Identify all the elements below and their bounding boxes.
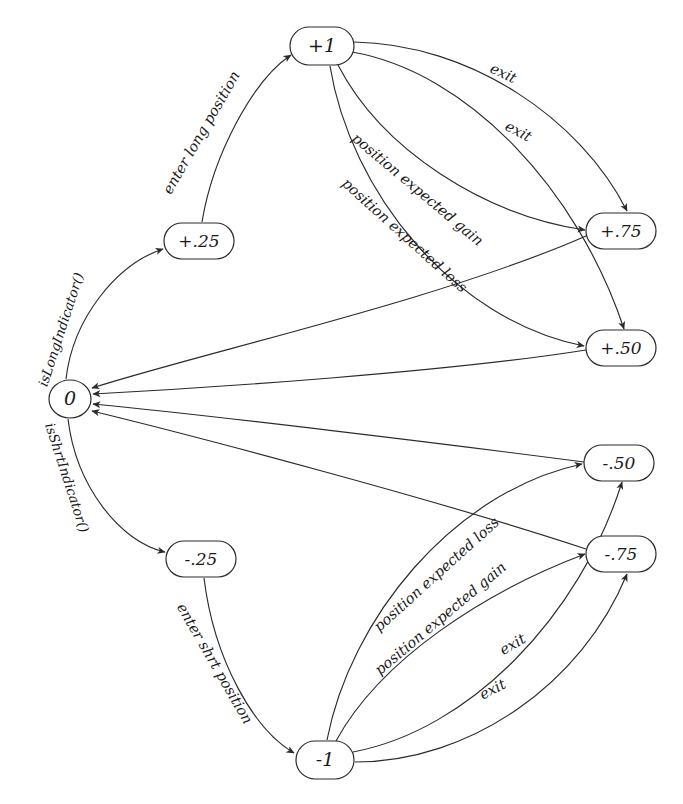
edge-n50-to-zero — [93, 404, 584, 462]
edge-p50-to-zero — [93, 350, 586, 394]
edge-p1-to-p50-exit — [352, 52, 624, 329]
node-zero-label: 0 — [64, 387, 76, 409]
edge-p25-to-p1 — [202, 55, 291, 222]
node-n75[interactable]: -.75 — [586, 536, 656, 572]
node-p75[interactable]: +.75 — [586, 213, 656, 249]
edge-p75-to-zero — [92, 236, 586, 388]
edge-label-exit-p1-p50: exit — [503, 118, 535, 145]
edge-label-exit-p1-p75: exit — [488, 60, 520, 86]
edge-zero-to-p25 — [66, 249, 163, 379]
node-n1[interactable]: -1 — [296, 741, 354, 779]
node-p75-label: +.75 — [600, 221, 641, 241]
diagram-canvas: isLongIndicator() enter long position ex… — [0, 0, 683, 804]
node-zero[interactable]: 0 — [49, 380, 91, 418]
node-p25-label: +.25 — [178, 231, 219, 251]
edge-label-enter-shrt-position: enter shrt position — [174, 600, 256, 726]
node-p1[interactable]: +1 — [290, 27, 354, 65]
state-machine-diagram: isLongIndicator() enter long position ex… — [0, 0, 683, 804]
edge-label-enter-long-position: enter long position — [159, 68, 242, 196]
edge-label-position-expected-loss-top: position expected loss — [339, 175, 470, 296]
node-p25[interactable]: +.25 — [164, 223, 234, 259]
edge-label-exit-n1-n50: exit — [497, 630, 529, 658]
node-n50[interactable]: -.50 — [584, 445, 654, 481]
node-p50-label: +.50 — [600, 338, 641, 358]
node-n25-label: -.25 — [185, 549, 218, 569]
node-p50[interactable]: +.50 — [586, 330, 656, 366]
node-p1-label: +1 — [308, 34, 336, 56]
edge-label-is-long-indicator: isLongIndicator() — [35, 271, 87, 389]
edge-n1-to-n75-gain — [336, 554, 585, 741]
node-n1-label: -1 — [316, 748, 335, 770]
node-n50-label: -.50 — [603, 453, 636, 473]
edge-label-exit-n1-n75: exit — [477, 676, 509, 703]
edges-layer — [66, 42, 627, 762]
node-n25[interactable]: -.25 — [166, 541, 236, 577]
node-n75-label: -.75 — [605, 544, 638, 564]
